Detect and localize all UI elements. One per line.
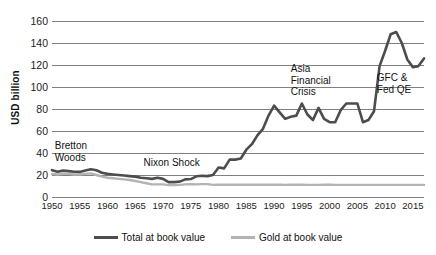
annotation-1: Nixon Shock bbox=[144, 157, 200, 169]
legend-swatch-icon bbox=[94, 236, 118, 239]
plot-area bbox=[0, 0, 436, 255]
annotation-0: Bretton Woods bbox=[55, 140, 87, 163]
legend-label: Total at book value bbox=[122, 232, 205, 243]
y-tick-20: 20 bbox=[22, 170, 48, 180]
legend-swatch-icon bbox=[231, 236, 255, 239]
y-tick-120: 120 bbox=[22, 60, 48, 70]
y-axis-title: USD billion bbox=[10, 53, 21, 143]
chart-container: USD billion 020406080100120140160 195019… bbox=[0, 0, 436, 255]
legend-label: Gold at book value bbox=[259, 232, 342, 243]
legend-item-1: Gold at book value bbox=[231, 232, 342, 243]
y-tick-40: 40 bbox=[22, 148, 48, 158]
y-axis-tick-labels: 020406080100120140160 bbox=[20, 0, 48, 255]
y-tick-80: 80 bbox=[22, 104, 48, 114]
x-tick-2015: 2015 bbox=[397, 200, 429, 211]
y-tick-160: 160 bbox=[22, 16, 48, 26]
y-tick-60: 60 bbox=[22, 126, 48, 136]
chart-legend: Total at book valueGold at book value bbox=[0, 232, 436, 243]
legend-item-0: Total at book value bbox=[94, 232, 205, 243]
annotation-3: GFC & Fed QE bbox=[377, 72, 411, 95]
y-tick-140: 140 bbox=[22, 38, 48, 48]
annotation-2: Asia Financial Crisis bbox=[291, 63, 331, 98]
y-tick-100: 100 bbox=[22, 82, 48, 92]
